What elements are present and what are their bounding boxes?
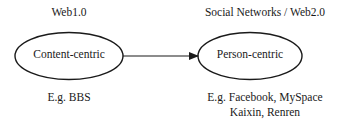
web2-example-line2: Kaixin, Renren: [190, 106, 340, 118]
content-centric-label: Content-centric: [19, 48, 119, 60]
person-centric-label: Person-centric: [200, 48, 300, 60]
web1-example: E.g. BBS: [29, 91, 109, 103]
web2-example-line1: E.g. Facebook, MySpace: [190, 91, 340, 103]
web2-title: Social Networks / Web2.0: [190, 6, 340, 18]
web1-title: Web1.0: [39, 6, 99, 18]
